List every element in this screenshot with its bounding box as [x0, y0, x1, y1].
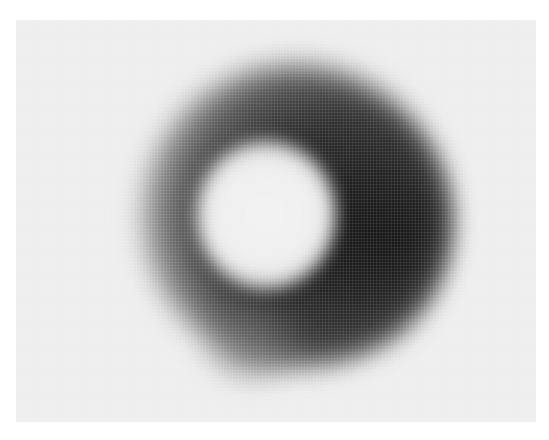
photo — [16, 20, 536, 422]
ring-hole — [196, 140, 336, 290]
ring-lower-tail — [196, 300, 306, 390]
